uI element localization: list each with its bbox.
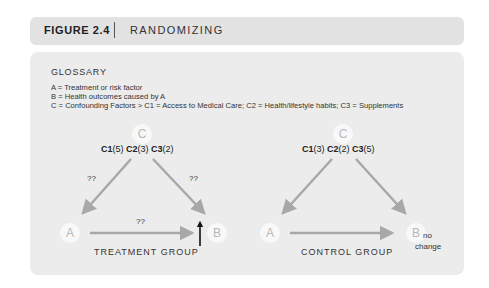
- factor-name: C1: [101, 144, 113, 154]
- factor-name: C3: [352, 144, 364, 154]
- treatment-node-a: A: [60, 223, 80, 243]
- control-factors: C1(3) C2(2) C3(5): [302, 144, 375, 154]
- control-group-label: CONTROL GROUP: [301, 247, 393, 257]
- treatment-group-label: TREATMENT GROUP: [94, 247, 199, 257]
- factor-value: (5): [364, 144, 375, 154]
- treatment-node-b: B: [207, 223, 227, 243]
- factor-value: (2): [163, 144, 174, 154]
- factor-name: C2: [126, 144, 138, 154]
- factor-name: C1: [302, 144, 314, 154]
- factor-value: (2): [339, 144, 350, 154]
- control-arrows: [283, 159, 405, 233]
- factor-name: C3: [151, 144, 163, 154]
- edge-label-a-to-b: ??: [136, 217, 145, 226]
- edge-label-c-to-a: ??: [87, 174, 96, 183]
- factor-name: C2: [327, 144, 339, 154]
- treatment-factors: C1(5) C2(3) C3(2): [101, 144, 174, 154]
- treatment-arrows: [83, 159, 204, 246]
- factor-value: (3): [314, 144, 325, 154]
- b-note-change: change: [415, 242, 441, 252]
- treatment-node-c: C: [132, 124, 152, 144]
- b-note-no: no: [423, 231, 432, 241]
- control-node-c: C: [333, 124, 353, 144]
- factor-value: (3): [138, 144, 149, 154]
- factor-value: (5): [113, 144, 124, 154]
- edge-label-c-to-b: ??: [189, 174, 198, 183]
- control-node-a: A: [260, 223, 280, 243]
